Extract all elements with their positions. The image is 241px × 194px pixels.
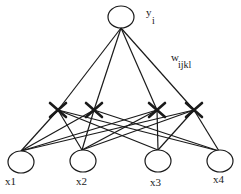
input-label-x1: x1 — [5, 176, 16, 187]
input-node-x2 — [70, 150, 96, 172]
output-node — [108, 6, 134, 28]
input-label-x3: x3 — [150, 177, 161, 188]
weight-label-subscript: ijkl — [178, 60, 191, 70]
edge-p4-x4 — [194, 110, 219, 151]
edge-p1-x2 — [58, 110, 82, 150]
edge-p3-x2 — [82, 110, 157, 150]
network-diagram — [0, 0, 241, 194]
product-unit-cross-icon — [186, 103, 202, 117]
edge-output-product-3 — [121, 28, 157, 110]
input-label-x4: x4 — [213, 174, 224, 185]
product-unit-cross-icon — [50, 103, 66, 117]
input-node-x3 — [145, 150, 171, 172]
product-unit-cross-icon — [86, 103, 102, 117]
edge-output-product-1 — [58, 28, 121, 110]
output-label: y — [146, 7, 152, 18]
edge-p4-x1 — [21, 110, 194, 151]
input-label-x2: x2 — [76, 176, 87, 187]
edge-p3-x3 — [157, 110, 158, 150]
input-node-x4 — [207, 150, 233, 172]
output-label-subscript: i — [152, 16, 155, 26]
edge-output-product-2 — [94, 28, 121, 110]
input-node-x1 — [8, 151, 34, 173]
